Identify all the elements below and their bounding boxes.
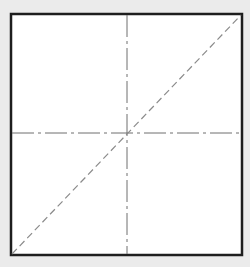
diagram-canvas xyxy=(0,0,250,267)
